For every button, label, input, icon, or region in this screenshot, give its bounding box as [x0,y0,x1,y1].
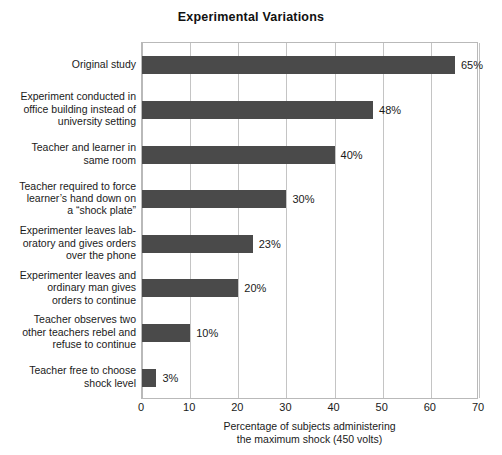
bars-layer: 65%48%40%30%23%20%10%3% [142,43,477,398]
x-tick-label-60: 60 [424,401,436,413]
category-label-line: Experiment conducted in [0,90,136,102]
x-tick-label-40: 40 [327,401,339,413]
bar-value-label: 48% [373,101,401,119]
plot-area: 65%48%40%30%23%20%10%3% [141,42,478,399]
bar [142,101,373,119]
category-label-line: oratory and gives orders [0,237,136,249]
x-tick-label-50: 50 [376,401,388,413]
category-label-line: Experimenter leaves lab- [0,224,136,236]
bar [142,235,253,253]
category-axis-labels: Original studyExperiment conducted inoff… [0,42,136,399]
category-label-line: a “shock plate” [0,204,136,216]
category-label: Teacher observes twoother teachers rebel… [0,313,136,350]
category-label: Original study [0,58,136,70]
category-label-line: Teacher required to force [0,180,136,192]
x-axis-tick-labels: 010203040506070 [141,401,478,419]
bar-row: 20% [142,279,479,297]
bar [142,146,335,164]
chart-title: Experimental Variations [0,10,502,24]
category-label-line: refuse to continue [0,338,136,350]
category-label-line: Teacher free to choose [0,364,136,376]
category-label: Teacher required to forcelearner’s hand … [0,180,136,217]
bar-row: 10% [142,324,479,342]
category-label-line: shock level [0,377,136,389]
x-tick-label-10: 10 [183,401,195,413]
bar [142,56,455,74]
bar-value-label: 20% [238,279,266,297]
category-label-line: Experimenter leaves and [0,269,136,281]
bar-row: 40% [142,146,479,164]
x-tick-label-30: 30 [279,401,291,413]
category-label-line: Teacher observes two [0,313,136,325]
bar-value-label: 40% [335,146,363,164]
category-label-line: same room [0,154,136,166]
x-axis-title: Percentage of subjects administering the… [141,420,478,446]
x-tick-label-70: 70 [472,401,484,413]
bar-value-label: 23% [253,235,281,253]
category-label-line: over the phone [0,249,136,261]
bar-row: 65% [142,56,479,74]
category-label-line: university setting [0,115,136,127]
gridline-70 [479,43,480,398]
category-label: Teacher and learner insame room [0,141,136,166]
category-label-line: Original study [0,58,136,70]
bar-row: 23% [142,235,479,253]
bar-row: 3% [142,369,479,387]
bar [142,369,156,387]
bar [142,279,238,297]
category-label-line: learner’s hand down on [0,192,136,204]
category-label-line: Teacher and learner in [0,141,136,153]
bar-row: 48% [142,101,479,119]
category-label-line: ordinary man gives [0,281,136,293]
x-axis-title-line-1: Percentage of subjects administering [141,420,478,433]
bar-value-label: 30% [286,190,314,208]
bar-chart-figure: Experimental Variations Original studyEx… [0,0,502,455]
category-label-line: office building instead of [0,103,136,115]
bar-value-label: 65% [455,56,483,74]
category-label: Experimenter leaves andordinary man give… [0,269,136,306]
category-label: Teacher free to chooseshock level [0,364,136,389]
x-axis-title-line-2: the maximum shock (450 volts) [141,433,478,446]
bar [142,324,190,342]
bar-value-label: 10% [190,324,218,342]
x-tick-label-20: 20 [231,401,243,413]
bar-row: 30% [142,190,479,208]
category-label-line: orders to continue [0,294,136,306]
category-label-line: other teachers rebel and [0,326,136,338]
x-tick-label-0: 0 [138,401,144,413]
bar-value-label: 3% [156,369,178,387]
category-label: Experimenter leaves lab-oratory and give… [0,224,136,261]
bar [142,190,286,208]
category-label: Experiment conducted inoffice building i… [0,90,136,127]
